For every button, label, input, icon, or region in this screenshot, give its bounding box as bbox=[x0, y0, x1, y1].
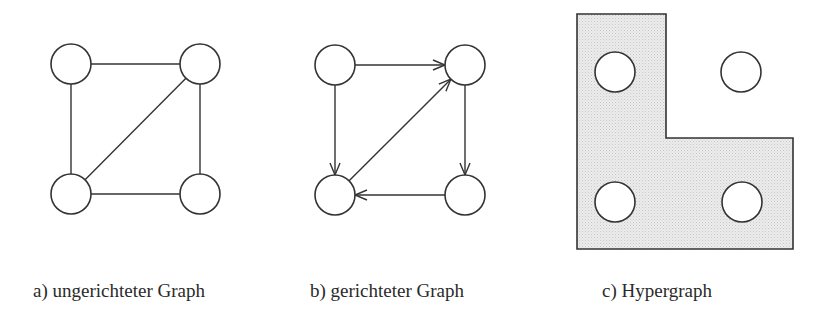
directed-graph bbox=[315, 45, 485, 215]
node-bl bbox=[315, 175, 355, 215]
hypergraph bbox=[577, 14, 793, 249]
node-tr bbox=[721, 52, 761, 92]
caption-hypergraph: c) Hypergraph bbox=[602, 280, 712, 302]
caption-directed-graph: b) gerichteter Graph bbox=[310, 280, 464, 302]
node-tr bbox=[180, 44, 220, 84]
edge-bl-tr bbox=[85, 78, 186, 180]
node-bl bbox=[595, 182, 635, 222]
node-tl bbox=[595, 52, 635, 92]
node-bl bbox=[51, 174, 91, 214]
caption-undirected-graph: a) ungerichteter Graph bbox=[33, 280, 205, 302]
node-tl bbox=[51, 44, 91, 84]
node-br bbox=[722, 182, 762, 222]
edge-bl-tr bbox=[349, 79, 451, 181]
node-tl bbox=[315, 45, 355, 85]
node-br bbox=[445, 175, 485, 215]
undirected-graph bbox=[51, 44, 220, 214]
node-br bbox=[180, 174, 220, 214]
node-tr bbox=[445, 45, 485, 85]
